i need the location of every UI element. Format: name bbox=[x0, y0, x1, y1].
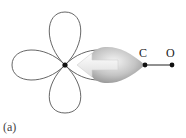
orbital-lobe-left bbox=[12, 50, 65, 80]
orbital-lobe-bottom bbox=[49, 65, 81, 113]
oxygen-label: O bbox=[166, 47, 175, 59]
metal-atom-dot bbox=[62, 62, 67, 67]
panel-label: (a) bbox=[3, 121, 16, 133]
orbital-svg bbox=[0, 0, 186, 138]
carbon-label: C bbox=[139, 47, 147, 59]
orbital-lobe-top bbox=[49, 12, 81, 65]
orbital-diagram: C O (a) bbox=[0, 0, 186, 138]
carbon-atom-dot bbox=[143, 63, 148, 68]
oxygen-atom-dot bbox=[170, 63, 175, 68]
